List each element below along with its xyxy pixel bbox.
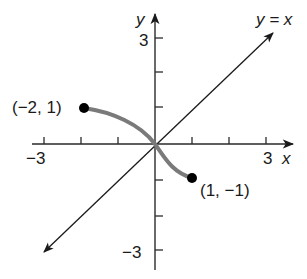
x-max-label: 3 [263,149,272,168]
point-b-marker [187,173,197,183]
y-axis-label: y [135,10,146,29]
graph: y 3 −3 −3 3 x y = x (−2, 1) (1, −1) [0,0,307,279]
y-max-label: 3 [139,31,148,50]
identity-line [44,33,273,252]
point-a-marker [79,103,89,113]
identity-line-label: y = x [255,10,293,29]
x-axis-label: x [281,149,291,168]
graph-canvas: y 3 −3 −3 3 x y = x (−2, 1) (1, −1) [0,0,307,279]
y-min-label: −3 [122,243,141,262]
point-b-label: (1, −1) [200,181,250,200]
point-a-label: (−2, 1) [12,98,62,117]
x-min-label: −3 [26,149,45,168]
function-curve [84,108,192,178]
